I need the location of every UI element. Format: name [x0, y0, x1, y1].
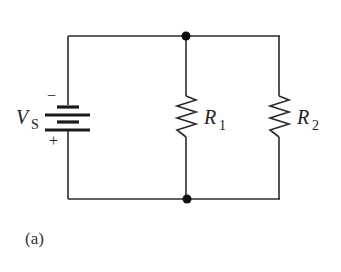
- battery-icon: [45, 107, 90, 130]
- source-subscript: S: [31, 117, 39, 132]
- source-label: V: [16, 106, 31, 128]
- figure-caption: (a): [25, 229, 44, 249]
- resistor-r1-icon: [177, 96, 196, 137]
- resistor-r2-icon: [270, 96, 289, 137]
- r2-label: R: [296, 106, 309, 128]
- r2-subscript: 2: [312, 118, 319, 133]
- battery-negative-sign: −: [47, 87, 56, 104]
- top-junction-node: [182, 32, 191, 41]
- battery-positive-sign: +: [49, 132, 58, 149]
- bottom-junction-node: [183, 195, 192, 204]
- circuit-diagram: − + V S R 1 R 2: [0, 0, 341, 272]
- r1-subscript: 1: [219, 118, 226, 133]
- wires: [68, 36, 280, 199]
- r1-label: R: [203, 106, 216, 128]
